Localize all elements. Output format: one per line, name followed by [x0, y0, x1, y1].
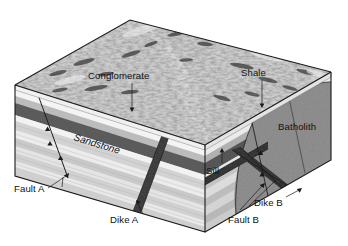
geologic-block-diagram: Conglomerate Shale Sandstone Batholith S… — [0, 0, 348, 246]
label-fault-a: Fault A — [14, 183, 45, 194]
label-sill: Sill — [206, 165, 219, 176]
label-dike-a: Dike A — [110, 214, 139, 225]
block-diagram-svg: Conglomerate Shale Sandstone Batholith S… — [0, 0, 348, 246]
label-dike-b: Dike B — [254, 197, 283, 208]
label-fault-b: Fault B — [228, 214, 259, 225]
label-shale: Shale — [241, 67, 266, 78]
label-batholith: Batholith — [278, 121, 316, 132]
label-conglomerate: Conglomerate — [88, 70, 149, 81]
